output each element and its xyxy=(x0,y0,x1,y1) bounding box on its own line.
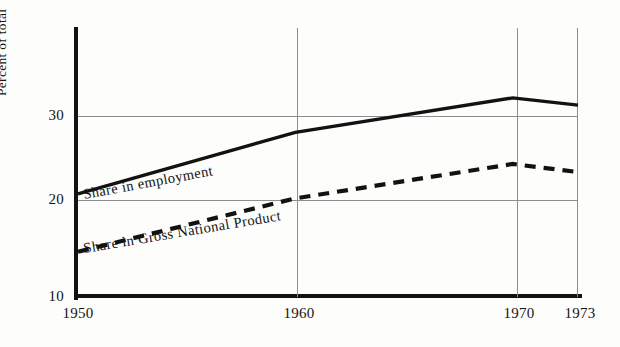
plot-area xyxy=(78,28,578,297)
gridline-x-1960 xyxy=(297,28,298,297)
gridline-x-1973 xyxy=(577,28,578,297)
y-tick-label-10: 10 xyxy=(42,288,64,305)
chart-figure: Percent of total 30 20 10 Share in emplo… xyxy=(0,0,620,347)
y-tick-label-20: 20 xyxy=(42,191,64,208)
x-tick-label-1973: 1973 xyxy=(565,305,596,322)
y-tick-label-30: 30 xyxy=(42,107,64,124)
x-tick-label-1950: 1950 xyxy=(63,305,94,322)
x-tick-label-1970: 1970 xyxy=(504,305,535,322)
gridline-y-20 xyxy=(78,200,578,201)
gridline-x-1970 xyxy=(517,28,518,297)
y-axis-title: Percent of total xyxy=(0,9,10,96)
gridline-y-30 xyxy=(78,116,578,117)
x-tick-label-1960: 1960 xyxy=(284,305,315,322)
